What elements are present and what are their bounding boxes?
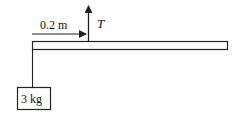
mass-label: 3 kg: [21, 92, 42, 106]
distance-label: 0.2 m: [40, 18, 68, 32]
tension-label: T: [97, 16, 105, 31]
beam: [33, 42, 228, 50]
beam-diagram: T 0.2 m 3 kg: [0, 0, 237, 118]
